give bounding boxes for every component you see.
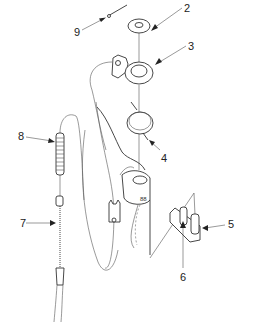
pivot-block-part xyxy=(150,193,200,258)
latch-clip xyxy=(109,200,120,222)
callout-2: 2 xyxy=(184,3,190,14)
callout-4: 4 xyxy=(161,153,167,164)
callout-7: 7 xyxy=(20,218,26,229)
ring-bracket-part xyxy=(112,55,153,84)
svg-text:88: 88 xyxy=(140,196,147,202)
torsion-spring-part xyxy=(127,102,153,140)
callout-3: 3 xyxy=(188,41,194,52)
exploded-parts-diagram: 88 xyxy=(0,0,254,328)
washer-part xyxy=(128,19,150,33)
callout-9: 9 xyxy=(74,27,80,38)
cable-part xyxy=(54,175,64,322)
callout-8: 8 xyxy=(18,131,24,142)
callout-6: 6 xyxy=(180,272,186,283)
rod-pin-part xyxy=(108,5,128,18)
callout-5: 5 xyxy=(228,219,234,230)
